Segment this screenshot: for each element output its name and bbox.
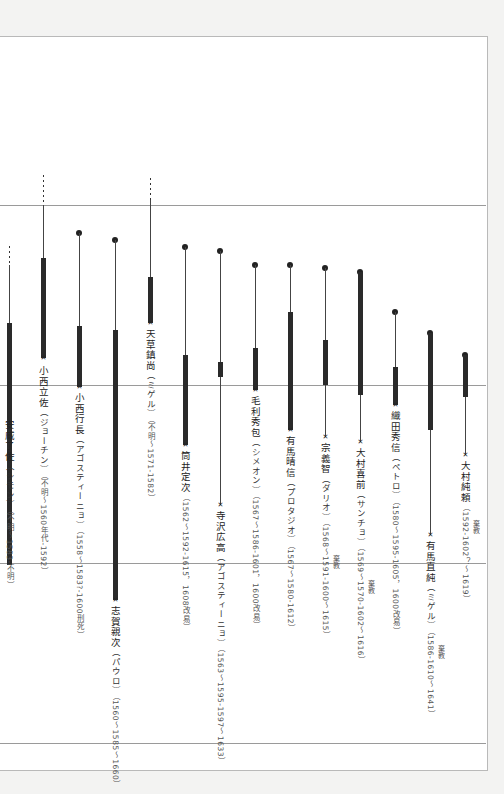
baptismal-name: （ダリオ） [320, 475, 330, 523]
life-line [325, 268, 326, 340]
grid-line [0, 205, 486, 206]
death-star-icon: ✕ [146, 319, 155, 328]
person-label: 小西立佐（ジョーチン）（不明～1560年代-1592） [37, 366, 49, 575]
death-star-icon: ✕ [216, 501, 225, 510]
person-name: 宗義智 [320, 443, 331, 475]
life-line-after [360, 395, 361, 442]
person-dates: （1558～1583?-1600刑死） [75, 530, 84, 639]
baptismal-name: （パウロ） [110, 648, 120, 696]
baptismal-name: （アゴスティーニョ） [215, 553, 225, 648]
life-line [255, 265, 256, 348]
christian-period-bar [41, 258, 46, 358]
person-timeline: ✕大村喜前（サンチョ）（1569～1570-1602～1616）棄教 [360, 0, 361, 794]
life-line-after [430, 430, 431, 535]
person-timeline: ✕織田秀信（ペトロ）（1580～1595-1605，1600改易） [395, 0, 396, 794]
person-label: 志賀親次（パウロ）（1560～1585～1660） [109, 606, 121, 789]
person-label: 筒井定次（1562～1592-1615，1608改易） [179, 451, 191, 632]
person-timeline: ✕有馬直純（ミゲル）（1586-1610～1641）棄教 [430, 0, 431, 794]
christian-period-bar [393, 367, 398, 405]
death-star-icon: ✕ [181, 441, 190, 450]
life-line [395, 312, 396, 367]
apostasy-note: 棄教 [331, 555, 341, 569]
person-label: 宗義智（ダリオ）（1568～1591-1600～1615） [319, 443, 331, 640]
person-name: 安威了佐 [4, 420, 15, 462]
person-timeline: ✕筒井定次（1562～1592-1615，1608改易） [185, 0, 186, 794]
apostasy-note: 棄教 [366, 580, 376, 594]
person-dates: （1586-1610～1641） [426, 631, 435, 719]
life-line-after [465, 397, 466, 455]
person-label: 安威了佐（シモン）（不明～1583-不明） [3, 420, 15, 589]
person-name: 大村純頼 [460, 461, 471, 503]
christian-period-bar [358, 272, 363, 395]
baptismal-name: （シモン） [4, 462, 14, 510]
person-dates: （1567～1580-1612） [286, 545, 295, 633]
person-name: 有馬晴信 [285, 436, 296, 478]
christian-period-bar [77, 326, 82, 387]
person-label: 寺沢広高（アゴスティーニョ）（1563～1595-1597～1633） [214, 511, 226, 766]
baptismal-name: （ジョーチン） [38, 408, 48, 475]
person-dates: （不明～1583-不明） [5, 510, 14, 590]
person-name: 小西行長 [74, 393, 85, 435]
baptismal-name: （プロタジオ） [285, 478, 295, 545]
person-name: 有馬直純 [425, 541, 436, 583]
person-timeline: ✕小西立佐（ジョーチン）（不明～1560年代-1592） [43, 0, 44, 794]
christian-period-bar [463, 355, 468, 397]
person-dates: （1568～1591-1600～1615） [321, 522, 330, 640]
grid-line [0, 743, 486, 744]
person-timeline: ✕有馬晴信（プロタジオ）（1567～1580-1612） [290, 0, 291, 794]
life-line-after [325, 385, 326, 437]
grid-line [0, 385, 486, 386]
life-line [115, 240, 116, 330]
death-star-icon: ✕ [286, 426, 295, 435]
death-star-icon: ✕ [39, 354, 48, 363]
person-timeline: ✕毛利秀包（シメオン）（1567～1586-1601，1600改易） [255, 0, 256, 794]
life-line [43, 205, 44, 258]
christian-period-bar [288, 312, 293, 430]
person-label: 小西行長（アゴスティーニョ）（1558～1583?-1600刑死） [73, 393, 85, 639]
person-label: 有馬直純（ミゲル）（1586-1610～1641） [424, 541, 436, 718]
apostasy-note: 棄教 [436, 645, 446, 659]
person-timeline: ✕天草鎮尚（ミゲル）（不明～1571-1582） [150, 0, 151, 794]
death-star-icon: ✕ [251, 386, 260, 395]
death-star-icon: ✕ [75, 383, 84, 392]
life-line-after [220, 377, 221, 505]
person-timeline: ✕大村純頼（1592-1602？～1619）棄教 [465, 0, 466, 794]
life-line [9, 265, 10, 323]
person-label: 天草鎮尚（ミゲル）（不明～1571-1582） [144, 329, 156, 502]
life-line [290, 265, 291, 312]
life-line [79, 233, 80, 326]
baptismal-name: （シメオン） [250, 438, 260, 495]
death-star-icon: ✕ [356, 438, 365, 447]
unknown-birth-dashed-line [43, 175, 44, 205]
baptismal-name: （ペトロ） [390, 453, 400, 501]
christian-period-bar [323, 340, 328, 385]
christian-period-bar [148, 277, 153, 323]
life-line [220, 251, 221, 362]
person-label: 織田秀信（ペトロ）（1580～1595-1605，1600改易） [389, 411, 401, 635]
life-line [150, 200, 151, 277]
christian-period-bar [113, 330, 118, 600]
christian-period-bar [183, 355, 188, 445]
christian-period-bar [253, 348, 258, 390]
person-dates: （1569～1570-1602～1616） [356, 547, 365, 665]
person-label: 有馬晴信（プロタジオ）（1567～1580-1612） [284, 436, 296, 632]
person-name: 志賀親次 [110, 606, 121, 648]
baptismal-name: （ミゲル） [425, 583, 435, 631]
baptismal-name: （アゴスティーニョ） [74, 435, 84, 530]
person-dates: （不明～1571-1582） [146, 419, 155, 503]
death-star-icon: ✕ [111, 596, 120, 605]
person-label: 毛利秀包（シメオン）（1567～1586-1601，1600改易） [249, 396, 261, 630]
death-star-icon: ✕ [426, 531, 435, 540]
unknown-birth-dashed-line [9, 246, 10, 265]
christian-period-bar [428, 333, 433, 430]
death-star-icon: ✕ [321, 433, 330, 442]
person-name: 寺沢広高 [215, 511, 226, 553]
person-name: 小西立佐 [38, 366, 49, 408]
person-name: 天草鎮尚 [145, 329, 156, 371]
person-name: 織田秀信 [390, 411, 401, 453]
person-name: 大村喜前 [355, 448, 366, 490]
baptismal-name: （ミゲル） [145, 371, 155, 419]
person-dates: （1563～1595-1597～1633） [216, 648, 225, 766]
person-dates: （1560～1585～1660） [111, 696, 120, 789]
person-timeline: ✕小西行長（アゴスティーニョ）（1558～1583?-1600刑死） [79, 0, 80, 794]
